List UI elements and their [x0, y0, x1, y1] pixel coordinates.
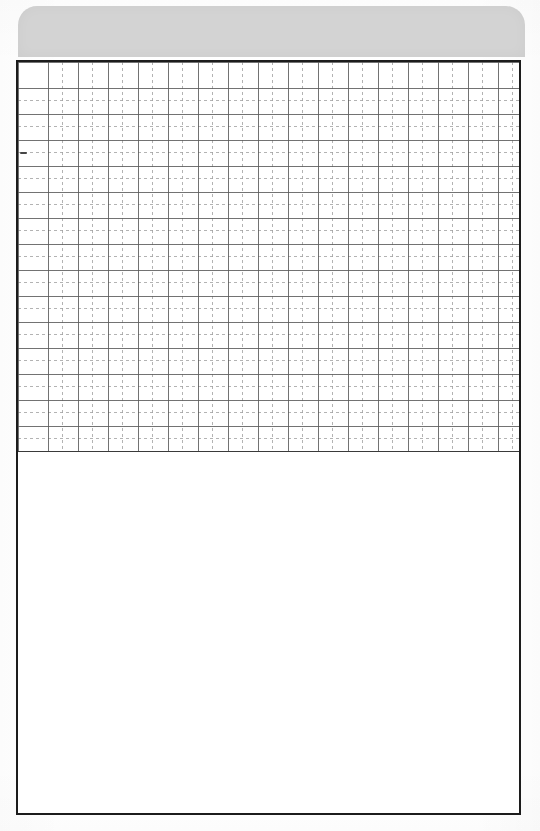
blank-writing-area-content — [18, 452, 19, 453]
graph-paper-grid[interactable] — [18, 62, 519, 452]
header-band[interactable] — [18, 6, 525, 57]
page-canvas: Scanned grid form page — [0, 0, 540, 831]
form-frame — [16, 60, 521, 815]
grid-major-lines — [18, 62, 519, 451]
blank-writing-area[interactable] — [18, 452, 519, 813]
scan-speck — [20, 152, 27, 154]
page-title: Scanned grid form page — [0, 0, 1, 1]
